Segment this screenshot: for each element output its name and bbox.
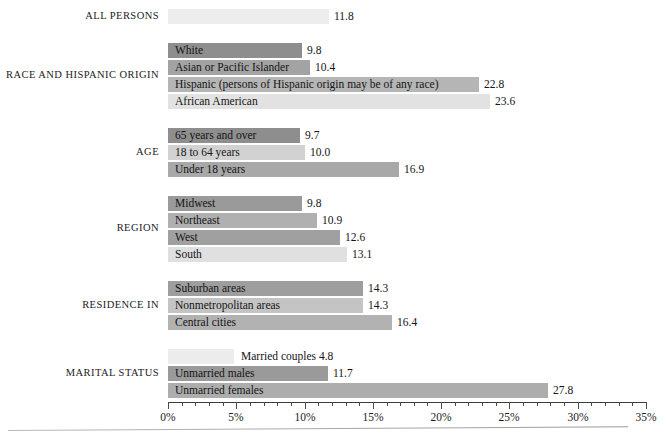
bar-value: 27.8 (553, 383, 573, 398)
x-tick-minor (523, 402, 524, 406)
x-tick-minor (332, 402, 333, 406)
bar-value: 13.1 (352, 247, 372, 262)
x-tick-minor (455, 402, 456, 406)
bar-row: Midwest9.8 (168, 196, 666, 211)
x-tick-minor (564, 402, 565, 406)
bar-value: 22.8 (484, 77, 504, 92)
x-tick-minor (496, 402, 497, 406)
x-tick-minor (277, 402, 278, 406)
bar-value: 9.8 (307, 43, 321, 58)
bar-row: Married couples 4.8 (168, 349, 666, 364)
bar-row: Asian or Pacific Islander10.4 (168, 60, 666, 75)
x-tick-label: 15% (362, 411, 383, 423)
bar-row: 65 years and over9.7 (168, 128, 666, 143)
group-label: RACE AND HISPANIC ORIGIN (6, 69, 159, 80)
bar-label: West (175, 230, 198, 245)
bar-label: 65 years and over (175, 128, 256, 143)
bar-value: 10.4 (315, 60, 335, 75)
x-tick-label: 0% (160, 411, 175, 423)
x-tick-minor (264, 402, 265, 406)
bar-row: African American23.6 (168, 94, 666, 109)
bar (168, 9, 329, 24)
bar-value: 9.7 (305, 128, 319, 143)
bar-row: Under 18 years16.9 (168, 162, 666, 177)
group-label: MARITAL STATUS (66, 367, 159, 378)
x-tick-major (305, 402, 306, 409)
bar-label: Central cities (175, 315, 236, 330)
bar-value: 9.8 (307, 196, 321, 211)
bar-value: 10.9 (322, 213, 342, 228)
x-tick-label: 25% (498, 411, 519, 423)
bar-label: Under 18 years (175, 162, 245, 177)
group-label: REGION (117, 222, 159, 233)
bar-label: Northeast (175, 213, 220, 228)
x-tick-major (168, 402, 169, 409)
bar-row: Northeast10.9 (168, 213, 666, 228)
x-tick-minor (359, 402, 360, 406)
bar-value: 16.9 (404, 162, 424, 177)
x-tick-minor (632, 402, 633, 406)
bar-label: Nonmetropolitan areas (175, 298, 280, 313)
bar-label: African American (175, 94, 258, 109)
x-tick-minor (387, 402, 388, 406)
bar-value: 16.4 (397, 315, 417, 330)
footer-divider (8, 426, 628, 431)
bar-label: Unmarried females (175, 383, 263, 398)
x-tick-minor (427, 402, 428, 406)
bar-row: Suburban areas14.3 (168, 281, 666, 296)
group-label: ALL PERSONS (85, 10, 159, 21)
bar-label: South (175, 247, 202, 262)
x-tick-major (646, 402, 647, 409)
bar-row: 11.8 (168, 9, 666, 24)
x-axis-line (168, 402, 647, 403)
x-tick-label: 5% (228, 411, 243, 423)
bar-label: 18 to 64 years (175, 145, 240, 160)
bar-value: 12.6 (345, 230, 365, 245)
x-tick-minor (414, 402, 415, 406)
x-tick-major (578, 402, 579, 409)
bar-value: 11.7 (333, 366, 353, 381)
bar-row: 18 to 64 years10.0 (168, 145, 666, 160)
bar-row: Central cities16.4 (168, 315, 666, 330)
x-tick-minor (400, 402, 401, 406)
x-tick-minor (250, 402, 251, 406)
x-tick-minor (318, 402, 319, 406)
bar-label: Asian or Pacific Islander (175, 60, 289, 75)
bar-label: Midwest (175, 196, 215, 211)
bar-row: Unmarried males11.7 (168, 366, 666, 381)
x-tick-minor (591, 402, 592, 406)
x-tick-label: 20% (430, 411, 451, 423)
x-tick-minor (346, 402, 347, 406)
bar-row: Nonmetropolitan areas14.3 (168, 298, 666, 313)
x-tick-minor (209, 402, 210, 406)
bar-row: South13.1 (168, 247, 666, 262)
x-tick-minor (550, 402, 551, 406)
x-tick-label: 35% (635, 411, 656, 423)
bar-label: Suburban areas (175, 281, 246, 296)
x-tick-major (441, 402, 442, 409)
x-tick-major (236, 402, 237, 409)
x-tick-label: 10% (294, 411, 315, 423)
bar-label-with-value: Married couples 4.8 (241, 349, 333, 364)
bar-row: White9.8 (168, 43, 666, 58)
group-label: AGE (136, 146, 159, 157)
bar-chart: ALL PERSONSRACE AND HISPANIC ORIGINAGERE… (0, 0, 666, 443)
bar-value: 14.3 (368, 281, 388, 296)
bar-value: 11.8 (334, 9, 354, 24)
x-tick-minor (195, 402, 196, 406)
x-tick-minor (482, 402, 483, 406)
bar-label: Unmarried males (175, 366, 255, 381)
x-tick-minor (291, 402, 292, 406)
x-tick-minor (605, 402, 606, 406)
bar-value: 23.6 (495, 94, 515, 109)
x-tick-major (509, 402, 510, 409)
group-label: RESIDENCE IN (82, 299, 159, 310)
bar-row: West12.6 (168, 230, 666, 245)
x-tick-minor (182, 402, 183, 406)
bar-value: 14.3 (368, 298, 388, 313)
bar-row: Hispanic (persons of Hispanic origin may… (168, 77, 666, 92)
x-tick-minor (619, 402, 620, 406)
x-tick-minor (468, 402, 469, 406)
bar (168, 349, 234, 364)
x-tick-minor (223, 402, 224, 406)
